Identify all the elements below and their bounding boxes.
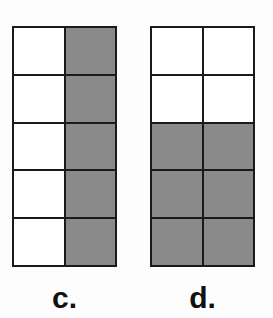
empty-cell — [204, 76, 254, 122]
empty-cell — [14, 76, 64, 122]
shaded-cell — [66, 171, 116, 217]
label-d: d. — [150, 281, 255, 315]
label-c: c. — [12, 281, 117, 315]
shaded-cell — [152, 124, 202, 170]
shaded-cell — [204, 171, 254, 217]
empty-cell — [14, 124, 64, 170]
empty-cell — [204, 28, 254, 74]
grid-d — [150, 26, 255, 267]
shaded-cell — [204, 124, 254, 170]
empty-cell — [14, 28, 64, 74]
empty-cell — [14, 171, 64, 217]
shaded-cell — [152, 171, 202, 217]
shaded-cell — [66, 124, 116, 170]
shaded-cell — [204, 219, 254, 265]
empty-cell — [152, 76, 202, 122]
empty-cell — [152, 28, 202, 74]
empty-cell — [14, 219, 64, 265]
shaded-cell — [66, 28, 116, 74]
shaded-cell — [66, 76, 116, 122]
shaded-cell — [152, 219, 202, 265]
shaded-cell — [66, 219, 116, 265]
grid-c — [12, 26, 117, 267]
